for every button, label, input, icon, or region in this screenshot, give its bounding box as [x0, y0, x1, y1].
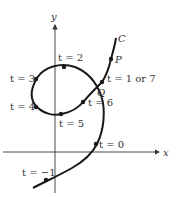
label-t-0: t = 0 — [99, 139, 124, 150]
point-t-6 — [81, 100, 85, 104]
label-t-3: t = 3 — [10, 73, 35, 84]
point-t-0 — [94, 142, 98, 146]
point-p — [109, 57, 113, 61]
point-p-label: P — [114, 54, 122, 65]
parametric-curve-diagram: x y C P Q t = 1 or 7 t = 2 t = 3 t = 4 t… — [0, 0, 178, 197]
point-t-neg1 — [44, 178, 48, 182]
point-t-5 — [59, 112, 63, 116]
label-t-4: t = 4 — [10, 101, 35, 112]
label-t-neg1: t = −1 — [22, 167, 56, 178]
point-t-2 — [62, 65, 66, 69]
curve-label: C — [118, 33, 126, 44]
label-t-2: t = 2 — [58, 52, 83, 63]
point-q — [100, 80, 104, 84]
label-t-6: t = 6 — [88, 97, 113, 108]
y-axis-label: y — [50, 11, 57, 22]
label-t-5: t = 5 — [59, 118, 84, 129]
x-axis-label: x — [163, 147, 169, 158]
label-t-1-or-7: t = 1 or 7 — [107, 73, 156, 84]
